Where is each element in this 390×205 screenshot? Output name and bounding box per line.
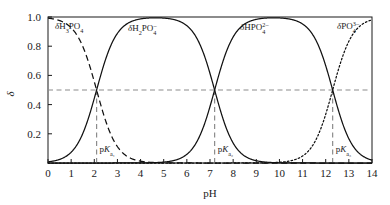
x-tick-label: 11 (297, 167, 308, 179)
species-labels: δH3PO4δH2PO4–δHPO42–δPO43– (55, 20, 360, 36)
y-tick-label: 0.6 (27, 69, 41, 81)
x-tick-label: 6 (184, 167, 190, 179)
species-label-s2: δH2PO4– (128, 22, 157, 36)
pka-label-pk2: pKa₂ (218, 144, 233, 157)
x-tick-label: 12 (320, 167, 331, 179)
x-tick-label: 0 (45, 167, 51, 179)
y-tick-label: 1.0 (27, 11, 41, 23)
x-axis-title: pH (203, 187, 217, 199)
x-tick-label: 5 (161, 167, 167, 179)
x-tick-label: 13 (343, 167, 355, 179)
x-tick-label: 1 (68, 167, 74, 179)
reference-guides (48, 90, 372, 163)
x-tick-label: 14 (367, 167, 379, 179)
x-tick-label: 9 (254, 167, 260, 179)
y-axis-title: δ (4, 91, 16, 97)
distribution-diagram-figure: 01234567891011121314 0.20.40.60.81.0 pH … (0, 0, 390, 205)
y-tick-label: 0.4 (27, 99, 41, 111)
pka-label-pk1: pKa₁ (100, 144, 115, 157)
pka-labels: pKa₁pKa₂pKa₃ (100, 144, 351, 157)
species-label-s3: δHPO42– (240, 21, 269, 35)
x-axis-ticks: 01234567891011121314 (45, 159, 378, 179)
x-tick-label: 8 (230, 167, 236, 179)
pka-label-pk3: pKa₃ (336, 144, 351, 157)
species-label-s4: δPO43– (337, 20, 360, 34)
y-tick-label: 0.2 (27, 128, 41, 140)
x-tick-label: 4 (138, 167, 144, 179)
species-label-s1: δH3PO4 (55, 21, 83, 34)
x-tick-label: 10 (274, 167, 286, 179)
x-tick-label: 3 (115, 167, 121, 179)
plot-canvas: 01234567891011121314 0.20.40.60.81.0 pH … (0, 0, 390, 205)
x-tick-label: 2 (92, 167, 98, 179)
y-tick-label: 0.8 (27, 40, 41, 52)
x-tick-label: 7 (207, 167, 213, 179)
